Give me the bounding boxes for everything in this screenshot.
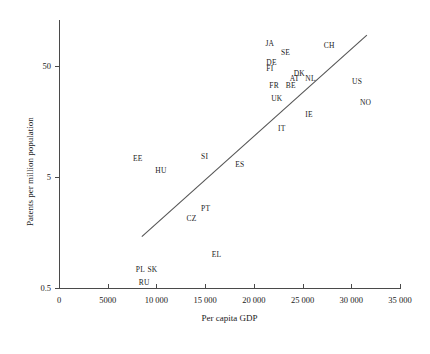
point-label-pl: PL xyxy=(136,266,145,274)
point-label-us: US xyxy=(352,78,362,86)
point-label-cz: CZ xyxy=(186,215,196,223)
point-label-ja: JA xyxy=(265,40,274,48)
scatter-chart: 5050.5 0500010 00015 00020 00025 00030 0… xyxy=(0,0,430,354)
x-axis-title: Per capita GDP xyxy=(59,314,400,323)
point-label-se: SE xyxy=(281,49,290,57)
point-label-ru: RU xyxy=(139,279,150,287)
point-label-ie: IE xyxy=(305,111,312,119)
point-label-pt: PT xyxy=(201,205,210,213)
point-label-sk: SK xyxy=(148,266,158,274)
point-label-si: SI xyxy=(201,153,208,161)
regression-line xyxy=(0,0,430,354)
point-label-el: EL xyxy=(212,251,222,259)
point-label-ee: EE xyxy=(133,155,143,163)
plot-area: 5050.5 0500010 00015 00020 00025 00030 0… xyxy=(0,0,430,354)
point-label-hu: HU xyxy=(155,167,166,175)
point-label-be: BE xyxy=(286,82,296,90)
point-label-nl: NL xyxy=(305,75,315,83)
point-label-it: IT xyxy=(278,125,285,133)
point-label-no: NO xyxy=(360,99,371,107)
y-axis-title: Patents per million population xyxy=(26,117,35,226)
point-label-es: ES xyxy=(235,161,244,169)
point-label-fr: FR xyxy=(269,82,279,90)
point-label-uk: UK xyxy=(271,95,282,103)
point-label-ch: CH xyxy=(324,42,335,50)
point-label-fi: FI xyxy=(266,65,273,73)
